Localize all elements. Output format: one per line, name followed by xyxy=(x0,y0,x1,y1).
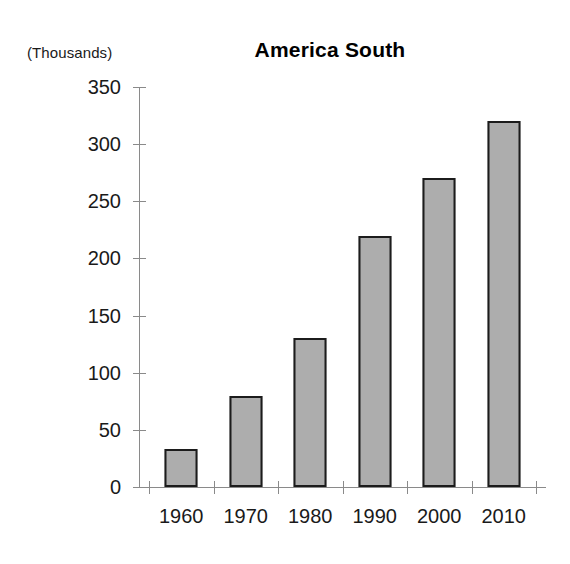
y-axis-tick-label: 0 xyxy=(110,477,121,497)
y-axis-tick-label: 200 xyxy=(88,248,121,268)
y-axis-tick: 250 xyxy=(133,201,146,202)
y-axis-tick: 200 xyxy=(133,258,146,259)
bar xyxy=(165,449,198,487)
bar-group xyxy=(149,87,214,487)
bar xyxy=(358,236,391,487)
x-axis-tick xyxy=(536,481,537,494)
bar-group xyxy=(343,87,408,487)
bar xyxy=(423,178,456,487)
bar-group xyxy=(472,87,537,487)
bar xyxy=(487,121,520,487)
y-axis-tick-label: 150 xyxy=(88,306,121,326)
plot-area: 050100150200250300350 196019701980199020… xyxy=(139,87,546,487)
y-axis-unit-caption: (Thousands) xyxy=(27,44,112,62)
bar-group xyxy=(407,87,472,487)
y-axis-tick: 350 xyxy=(133,87,146,88)
y-axis-line xyxy=(139,87,140,488)
y-axis-tick-label: 300 xyxy=(88,134,121,154)
y-axis-tick: 100 xyxy=(133,373,146,374)
y-axis-tick: 150 xyxy=(133,316,146,317)
y-axis-tick: 50 xyxy=(133,430,146,431)
x-axis-label: 2010 xyxy=(454,505,554,527)
y-axis-tick-label: 350 xyxy=(88,77,121,97)
y-axis-tick-label: 50 xyxy=(99,420,121,440)
bar xyxy=(229,396,262,487)
bar xyxy=(294,338,327,487)
y-axis-tick-label: 250 xyxy=(88,191,121,211)
bar-group xyxy=(214,87,279,487)
y-axis-tick: 300 xyxy=(133,144,146,145)
y-axis-tick-label: 100 xyxy=(88,363,121,383)
chart-title: America South xyxy=(200,38,460,62)
bar-group xyxy=(278,87,343,487)
y-axis-tick: 0 xyxy=(133,487,146,488)
bar-chart: (Thousands) America South 05010015020025… xyxy=(0,0,570,564)
